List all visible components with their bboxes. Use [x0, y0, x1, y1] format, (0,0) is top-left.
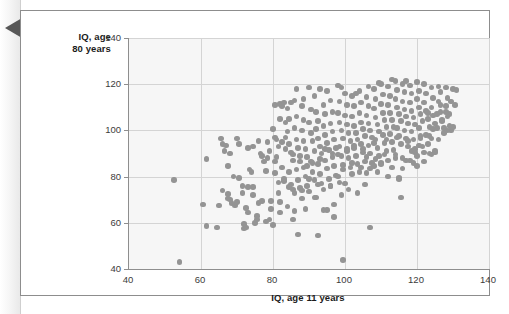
scatter-point — [362, 133, 368, 139]
scatter-point — [367, 225, 373, 231]
y-tick-mark — [124, 84, 128, 85]
scatter-point — [265, 155, 271, 161]
scatter-point — [290, 217, 296, 223]
scatter-point — [436, 84, 442, 90]
scatter-point — [346, 187, 352, 193]
x-tick-label: 120 — [401, 275, 431, 285]
scatter-point — [171, 177, 177, 183]
scatter-point — [306, 120, 312, 126]
scatter-point — [405, 121, 411, 127]
scatter-point — [272, 102, 278, 108]
y-tick-label: 140 — [95, 33, 121, 43]
scatter-point — [326, 176, 332, 182]
x-tick-label: 60 — [185, 275, 215, 285]
scatter-point — [306, 189, 312, 195]
scatter-point — [234, 136, 240, 142]
scatter-point — [382, 117, 388, 123]
scatter-point — [322, 146, 328, 152]
scatter-point — [263, 219, 269, 225]
scatter-point — [223, 143, 229, 149]
scatter-point — [322, 111, 328, 117]
scatter-point — [294, 86, 300, 92]
scatter-point — [301, 138, 307, 144]
scatter-point — [250, 192, 256, 198]
scatter-point — [409, 108, 415, 114]
scatter-point — [340, 257, 346, 263]
scatter-point — [439, 118, 445, 124]
scatter-point — [393, 96, 399, 102]
scatter-point — [321, 187, 327, 193]
y-tick-mark — [124, 130, 128, 131]
scatter-point — [339, 128, 345, 134]
scatter-point — [344, 102, 350, 108]
scatter-point — [250, 144, 256, 150]
scatter-point — [416, 143, 422, 149]
scatter-point — [303, 206, 309, 212]
y-tick-mark — [124, 223, 128, 224]
scatter-point — [328, 183, 334, 189]
scatter-point — [301, 96, 307, 102]
scatter-point — [299, 128, 305, 134]
y-tick-mark — [124, 269, 128, 270]
scatter-point — [324, 140, 330, 146]
scatter-point — [218, 136, 224, 142]
scatter-point — [378, 161, 384, 167]
scatter-point — [324, 166, 330, 172]
x-tick-label: 40 — [113, 275, 143, 285]
scatter-point — [281, 176, 287, 182]
scatter-point — [303, 146, 309, 152]
scatter-point — [360, 146, 366, 152]
scatter-point — [330, 129, 336, 135]
scatter-point — [342, 181, 348, 187]
x-tick-label: 80 — [257, 275, 287, 285]
scatter-point — [378, 101, 384, 107]
scatter-point — [270, 222, 276, 228]
scatter-point — [450, 124, 456, 130]
scatter-point — [267, 148, 273, 154]
scatter-point — [204, 156, 210, 162]
scatter-point — [335, 152, 341, 158]
scatter-point — [339, 85, 345, 91]
scatter-point — [346, 130, 352, 136]
scatter-point — [297, 153, 303, 159]
scatter-point — [288, 100, 294, 106]
scatter-point — [366, 121, 372, 127]
scatter-point — [268, 198, 274, 204]
scatter-point — [389, 117, 395, 123]
scatter-point — [322, 158, 328, 164]
scatter-point — [250, 184, 256, 190]
scatter-point — [286, 169, 292, 175]
scatter-point — [225, 196, 231, 202]
scatter-point — [416, 88, 422, 94]
page-edge-shadow — [0, 0, 20, 314]
scatter-point — [337, 144, 343, 150]
scatter-point — [403, 114, 409, 120]
scatter-point — [402, 89, 408, 95]
scatter-point — [265, 139, 271, 145]
scatter-point — [294, 114, 300, 120]
scatter-point — [310, 169, 316, 175]
scatter-point — [331, 163, 337, 169]
scatter-point — [373, 115, 379, 121]
scatter-point — [313, 109, 319, 115]
scatter-point — [441, 130, 447, 136]
gridline-horizontal — [129, 223, 489, 224]
scatter-point — [344, 122, 350, 128]
scatter-point — [234, 199, 240, 205]
scatter-point — [436, 137, 442, 143]
scatter-point — [387, 110, 393, 116]
scatter-point — [236, 141, 242, 147]
scatter-point — [295, 177, 301, 183]
scatter-point — [312, 148, 318, 154]
scatter-point — [376, 80, 382, 86]
scatter-point — [398, 118, 404, 124]
scatter-point — [321, 102, 327, 108]
scatter-point — [375, 145, 381, 151]
scatter-point — [294, 167, 300, 173]
scatter-point — [339, 192, 345, 198]
y-axis-title-line2: 80 years — [72, 43, 111, 54]
scatter-point — [421, 81, 427, 87]
x-tick-label: 140 — [473, 275, 503, 285]
scatter-point — [434, 125, 440, 131]
scatter-point — [342, 91, 348, 97]
